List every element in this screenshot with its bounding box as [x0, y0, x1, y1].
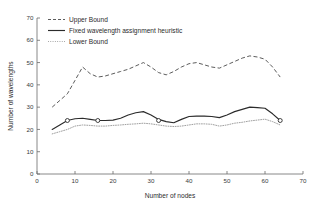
data-point-marker [278, 119, 282, 123]
x-axis-title: Number of nodes [145, 192, 196, 199]
x-tick-label: 70 [300, 177, 307, 184]
x-tick-label: 30 [148, 177, 155, 184]
y-tick-label: 0 [30, 170, 34, 177]
legend-label-lower-bound: Lower Bound [69, 38, 108, 45]
y-tick-label: 20 [27, 126, 34, 133]
y-tick-labels: 010203040506070 [27, 14, 34, 177]
x-tick-label: 0 [35, 177, 39, 184]
x-tick-label: 50 [224, 177, 231, 184]
y-axis-title: Number of wavelengths [7, 61, 15, 131]
line-chart: 010203040506070 010203040506070 Number o… [0, 0, 320, 208]
x-tick-marks [37, 171, 303, 174]
legend: Upper Bound Fixed wavelength assignment … [48, 16, 183, 45]
legend-label-heuristic: Fixed wavelength assignment heuristic [69, 27, 183, 35]
x-tick-labels: 010203040506070 [35, 177, 307, 184]
y-tick-label: 10 [27, 148, 34, 155]
x-tick-label: 10 [72, 177, 79, 184]
series-markers-heuristic [65, 119, 282, 123]
x-tick-label: 40 [186, 177, 193, 184]
x-tick-label: 20 [110, 177, 117, 184]
legend-label-upper-bound: Upper Bound [69, 16, 108, 24]
data-point-marker [65, 119, 69, 123]
x-tick-label: 60 [262, 177, 269, 184]
legend-entry-heuristic: Fixed wavelength assignment heuristic [48, 27, 183, 35]
y-tick-label: 70 [27, 14, 34, 21]
data-point-marker [96, 119, 100, 123]
y-tick-label: 50 [27, 59, 34, 66]
y-tick-marks [37, 18, 40, 174]
legend-entry-lower-bound: Lower Bound [48, 38, 108, 45]
y-tick-label: 30 [27, 103, 34, 110]
y-tick-label: 60 [27, 36, 34, 43]
series-line-upper-bound [52, 56, 280, 107]
legend-entry-upper-bound: Upper Bound [48, 16, 108, 24]
data-point-marker [157, 119, 161, 123]
chart-figure: 010203040506070 010203040506070 Number o… [0, 0, 320, 208]
y-tick-label: 40 [27, 81, 34, 88]
